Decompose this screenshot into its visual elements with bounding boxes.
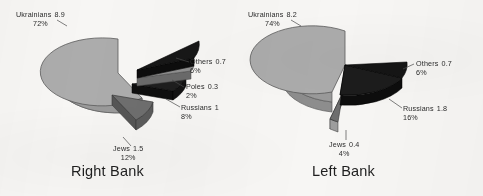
right-bank-title: Right Bank	[71, 163, 144, 179]
right-bank-slice-ukrainians	[40, 38, 142, 106]
left-bank-leader-russians	[389, 99, 402, 108]
right-bank-label-russians: Russians1 8%	[181, 104, 219, 121]
left-bank-label-russians: Russians1.8 16%	[403, 105, 447, 122]
chart-right-bank: Ukrainians8.9 72% Others0.7 6% Poles0.3 …	[0, 0, 242, 196]
right-bank-label-poles: Poles0.3 2%	[186, 83, 218, 100]
right-bank-label-jews: Jews1.5 12%	[113, 145, 143, 162]
chart-left-bank: Ukrainians8.2 74% Others0.7 6% Russians1…	[242, 0, 483, 196]
left-bank-label-jews: Jews0.4 4%	[329, 141, 359, 158]
figure-canvas: Ukrainians8.9 72% Others0.7 6% Poles0.3 …	[0, 0, 483, 196]
left-bank-title: Left Bank	[312, 163, 375, 179]
left-bank-label-ukrainians: Ukrainians8.2 74%	[248, 11, 297, 28]
right-bank-label-others: Others0.7 6%	[190, 58, 226, 75]
right-bank-label-ukrainians: Ukrainians8.9 72%	[16, 11, 65, 28]
left-bank-slice-ukrainians	[250, 26, 345, 94]
left-bank-label-others: Others0.7 6%	[416, 60, 452, 77]
